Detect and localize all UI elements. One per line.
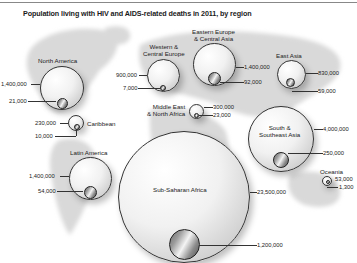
value-eastern-europe-central-asia-deaths: 92,000	[244, 79, 262, 85]
bubble-south-southeast-asia-deaths	[273, 152, 289, 168]
bubble-east-asia-living	[277, 60, 306, 89]
bubble-sub-saharan-africa-living	[118, 131, 250, 263]
bubble-oceania-deaths	[326, 180, 330, 184]
value-south-southeast-asia-deaths: 250,000	[323, 150, 344, 156]
label-line: Central Europe	[143, 50, 185, 57]
region-label-caribbean: Caribbean	[87, 120, 116, 127]
chart-title: Population living with HIV and AIDS-rela…	[23, 9, 251, 18]
bubble-latin-america-living	[69, 157, 112, 200]
region-label-eastern-europe-central-asia: Eastern Europe & Central Asia	[192, 28, 235, 42]
value-middle-east-north-africa-living: 300,000	[213, 104, 234, 110]
value-latin-america-deaths: 54,000	[38, 188, 56, 194]
bubble-caribbean-deaths	[74, 124, 80, 130]
leader-line	[199, 115, 213, 116]
bubble-latin-america-deaths	[84, 186, 97, 199]
region-label-latin-america: Latin America	[70, 149, 108, 156]
value-north-america-deaths: 21,000	[9, 98, 27, 104]
leader-line	[204, 107, 213, 108]
region-label-middle-east-north-africa: Middle East & North Africa	[147, 103, 185, 117]
value-latin-america-living: 1,400,000	[29, 173, 55, 179]
bubble-western-central-europe-deaths	[160, 85, 166, 91]
leader-line	[55, 136, 76, 137]
leader-line	[60, 123, 68, 124]
label-line: & Central Asia	[192, 35, 235, 42]
label-line: Eastern Europe	[192, 28, 235, 35]
region-label-south-southeast-asia: South & Southeast Asia	[259, 124, 300, 138]
leader-line	[288, 153, 323, 154]
value-north-america-living: 1,400,000	[1, 81, 27, 87]
bubble-eastern-europe-central-asia-living	[193, 43, 236, 86]
bubble-south-southeast-asia-living	[248, 106, 314, 172]
leader-line	[306, 73, 318, 74]
bubble-north-america-living	[40, 66, 84, 110]
leader-line	[327, 187, 338, 188]
region-label-east-asia: East Asia	[276, 52, 302, 59]
bubble-middle-east-north-africa-living	[189, 104, 204, 119]
leader-line	[236, 67, 244, 68]
leader-line	[76, 129, 77, 136]
leader-line	[139, 75, 147, 76]
value-middle-east-north-africa-deaths: 23,000	[213, 112, 231, 118]
label-line: South &	[259, 124, 300, 131]
label-line: Middle East	[147, 103, 185, 110]
bubble-north-america-deaths	[57, 98, 68, 109]
leader-line	[220, 82, 244, 83]
leader-line	[138, 88, 160, 89]
leader-line	[250, 192, 257, 193]
value-caribbean-deaths: 10,000	[35, 133, 53, 139]
label-line: Southeast Asia	[259, 131, 300, 138]
bubble-oceania-living	[322, 176, 332, 186]
bubble-eastern-europe-central-asia-deaths	[208, 72, 221, 85]
leader-line	[57, 191, 83, 192]
value-east-asia-living: 830,000	[318, 70, 339, 76]
value-western-central-europe-living: 900,000	[116, 72, 137, 78]
leader-line	[199, 245, 257, 246]
leader-line	[31, 84, 40, 85]
value-western-central-europe-deaths: 7,000	[123, 85, 138, 91]
label-line: Western &	[143, 43, 185, 50]
region-label-sub-saharan-africa: Sub-Saharan Africa	[153, 186, 207, 193]
value-sub-saharan-africa-living: 23,500,000	[257, 189, 286, 195]
value-east-asia-deaths: 59,000	[318, 88, 336, 94]
leader-line	[60, 176, 69, 177]
label-line: & North Africa	[147, 110, 185, 117]
region-label-north-america: North America	[38, 57, 77, 64]
value-sub-saharan-africa-deaths: 1,200,000	[257, 242, 283, 248]
value-caribbean-living: 230,000	[35, 120, 56, 126]
value-south-southeast-asia-living: 4,000,000	[323, 126, 349, 132]
region-label-western-central-europe: Western & Central Europe	[143, 43, 185, 57]
value-eastern-europe-central-asia-living: 1,400,000	[244, 64, 270, 70]
value-oceania-deaths: 1,300	[339, 184, 354, 190]
value-oceania-living: 53,000	[335, 176, 353, 182]
bubble-east-asia-deaths	[286, 78, 295, 87]
leader-line	[314, 129, 323, 130]
leader-line	[292, 91, 318, 92]
leader-line	[28, 101, 56, 102]
bubble-sub-saharan-africa-deaths	[169, 229, 200, 260]
region-label-oceania: Oceania	[320, 168, 343, 175]
